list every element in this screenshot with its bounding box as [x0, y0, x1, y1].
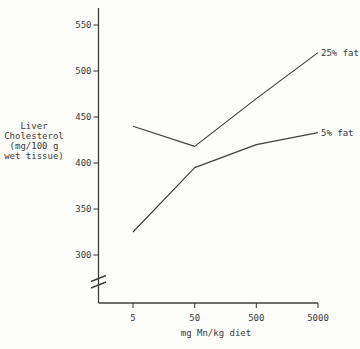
y-tick-label: 350 [75, 204, 91, 214]
x-tick-label: 5 [130, 313, 135, 323]
series-line-5-fat [133, 133, 318, 232]
series-label-25-fat: 25% fat [321, 48, 359, 58]
y-axis-title-line: Liver [20, 121, 48, 131]
y-tick-label: 450 [75, 112, 91, 122]
y-tick-label: 300 [75, 250, 91, 260]
figure-liver-cholesterol: 3003504004505005505505005000LiverCholest… [0, 0, 360, 349]
y-axis-title-line: (mg/100 g [10, 141, 59, 151]
y-axis-title-line: wet tissue) [4, 151, 64, 161]
y-tick-label: 400 [75, 158, 91, 168]
y-axis-title-line: Cholesterol [4, 131, 64, 141]
x-tick-label: 50 [189, 313, 200, 323]
x-tick-label: 5000 [307, 313, 329, 323]
x-axis-title: mg Mn/kg diet [181, 328, 251, 338]
y-tick-label: 550 [75, 20, 91, 30]
x-tick-label: 500 [248, 313, 264, 323]
liver-cholesterol-line-chart: 3003504004505005505505005000LiverCholest… [0, 0, 360, 349]
series-line-25-fat [133, 53, 318, 147]
series-label-5-fat: 5% fat [321, 128, 354, 138]
y-tick-label: 500 [75, 66, 91, 76]
